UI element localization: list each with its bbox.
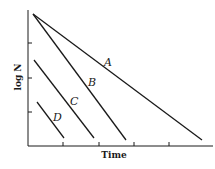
y-axis-label: log N <box>13 63 23 90</box>
series-c-line <box>34 60 94 138</box>
series-a-label: A <box>103 56 112 69</box>
series-b-label: B <box>87 76 96 89</box>
chart: A B C D Time log N <box>0 0 215 169</box>
series-c-label: C <box>70 95 79 108</box>
x-axis-label: Time <box>101 150 127 160</box>
series-d-label: D <box>52 111 62 124</box>
